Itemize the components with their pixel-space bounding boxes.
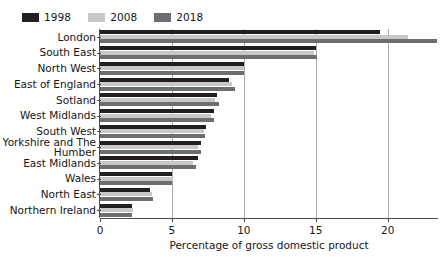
bar[interactable]	[100, 98, 215, 102]
bar[interactable]	[100, 156, 198, 160]
bar[interactable]	[100, 181, 172, 185]
legend-label: 1998	[44, 12, 71, 23]
bar-group	[100, 62, 438, 75]
legend-item-2018[interactable]: 2018	[154, 12, 203, 23]
y-tick	[97, 37, 101, 38]
x-tick-label: 0	[97, 224, 104, 236]
category-label: East of England	[0, 79, 96, 90]
bar[interactable]	[100, 46, 316, 50]
bar[interactable]	[100, 87, 235, 91]
bar[interactable]	[100, 35, 408, 39]
x-tick-5	[172, 218, 173, 222]
bar[interactable]	[100, 51, 314, 55]
category-label: West Midlands	[0, 110, 96, 121]
category-label: Yorkshire and The Humber	[0, 137, 96, 158]
category-label: South East	[0, 47, 96, 58]
bar[interactable]	[100, 118, 214, 122]
legend-item-2008[interactable]: 2008	[88, 12, 137, 23]
bar[interactable]	[100, 134, 205, 138]
y-tick	[97, 116, 101, 117]
bar[interactable]	[100, 145, 198, 149]
x-tick-label: 10	[237, 224, 250, 236]
x-tick-label: 15	[309, 224, 322, 236]
bar[interactable]	[100, 114, 211, 118]
bar[interactable]	[100, 82, 232, 86]
bar[interactable]	[100, 30, 380, 34]
category-label: Sotland	[0, 95, 96, 106]
legend-swatch-2008	[88, 13, 105, 22]
x-axis-title: Percentage of gross domestic product	[100, 239, 438, 251]
bar[interactable]	[100, 129, 204, 133]
bar[interactable]	[100, 78, 229, 82]
bar[interactable]	[100, 39, 437, 43]
legend-swatch-2018	[154, 13, 171, 22]
category-label: North West	[0, 63, 96, 74]
y-tick	[97, 210, 101, 211]
bar[interactable]	[100, 204, 132, 208]
category-label: Northern Ireland	[0, 205, 96, 216]
x-tick-label: 20	[381, 224, 394, 236]
bar[interactable]	[100, 177, 173, 181]
y-tick	[97, 147, 101, 148]
bar-chart: 199820082018 LondonSouth EastNorth WestE…	[0, 0, 440, 257]
bar-group	[100, 204, 438, 217]
category-axis-labels: LondonSouth EastNorth WestEast of Englan…	[0, 29, 96, 218]
bar[interactable]	[100, 192, 152, 196]
bar-group	[100, 156, 438, 169]
y-tick	[97, 163, 101, 164]
y-tick	[97, 53, 101, 54]
category-label: East Midlands	[0, 158, 96, 169]
bar[interactable]	[100, 188, 150, 192]
bar-group	[100, 141, 438, 154]
legend-label: 2008	[110, 12, 137, 23]
bar[interactable]	[100, 55, 317, 59]
chart-legend: 199820082018	[22, 10, 203, 24]
bar[interactable]	[100, 109, 214, 113]
bar[interactable]	[100, 165, 196, 169]
bar[interactable]	[100, 125, 206, 129]
bar[interactable]	[100, 197, 153, 201]
bar-group	[100, 109, 438, 122]
bar[interactable]	[100, 102, 219, 106]
legend-item-1998[interactable]: 1998	[22, 12, 71, 23]
y-tick	[97, 179, 101, 180]
bar[interactable]	[100, 141, 201, 145]
bar[interactable]	[100, 71, 244, 75]
bar-group	[100, 188, 438, 201]
bar[interactable]	[100, 66, 244, 70]
bar[interactable]	[100, 161, 193, 165]
bar[interactable]	[100, 62, 244, 66]
bar-group	[100, 46, 438, 59]
x-tick-15	[316, 218, 317, 222]
bar[interactable]	[100, 93, 217, 97]
x-tick-10	[244, 218, 245, 222]
y-tick	[97, 68, 101, 69]
bar-group	[100, 125, 438, 138]
legend-label: 2018	[176, 12, 203, 23]
plot-area	[100, 29, 438, 218]
x-tick-0	[100, 218, 101, 222]
category-label: North East	[0, 189, 96, 200]
bar-group	[100, 172, 438, 185]
y-tick	[97, 194, 101, 195]
x-tick-label: 5	[169, 224, 176, 236]
x-tick-20	[388, 218, 389, 222]
bar[interactable]	[100, 172, 172, 176]
bar[interactable]	[100, 150, 201, 154]
y-tick	[97, 131, 101, 132]
bar[interactable]	[100, 213, 132, 217]
y-tick	[97, 100, 101, 101]
category-label: Wales	[0, 173, 96, 184]
bar[interactable]	[100, 208, 133, 212]
bar-group	[100, 78, 438, 91]
category-label: London	[0, 32, 96, 43]
legend-swatch-1998	[22, 13, 39, 22]
y-tick	[97, 84, 101, 85]
bar-group	[100, 93, 438, 106]
bar-group	[100, 30, 438, 43]
